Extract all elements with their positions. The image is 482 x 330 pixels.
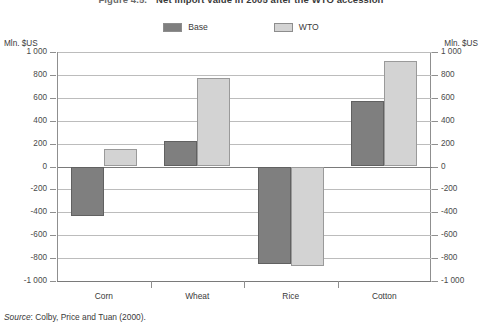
- legend-swatch-base: [163, 23, 182, 32]
- figure-title-text: Net import value in 2005 after the WTO a…: [156, 0, 383, 5]
- bar-corn-base[interactable]: [71, 167, 104, 216]
- x-axis-label-cotton: Cotton: [338, 291, 432, 301]
- source-text: : Colby, Price and Tuan (2000).: [31, 312, 146, 322]
- tick-mark-right: [432, 281, 438, 282]
- source-label: Source: [4, 312, 31, 322]
- tick-mark-left: [50, 189, 56, 190]
- category-separator: [338, 281, 339, 288]
- gridline: [58, 235, 432, 236]
- legend-label-base: Base: [188, 22, 208, 32]
- gridline: [58, 258, 432, 259]
- tick-mark-left: [50, 235, 56, 236]
- y-tick-label-right: -400: [441, 208, 457, 216]
- tick-mark-right: [432, 98, 438, 99]
- tick-mark-right: [432, 121, 438, 122]
- bar-wheat-wto[interactable]: [197, 78, 230, 166]
- gridline: [58, 98, 432, 99]
- y-tick-label-right: -600: [441, 231, 457, 239]
- y-tick-label-right: -800: [441, 254, 457, 262]
- tick-mark-right: [432, 75, 438, 76]
- y-tick-label-left: -200: [0, 185, 47, 193]
- y-tick-label-left: 600: [0, 94, 47, 102]
- bar-rice-wto[interactable]: [291, 167, 324, 267]
- y-tick-label-left: -1 000: [0, 277, 47, 285]
- tick-mark-left: [50, 258, 56, 259]
- tick-mark-right: [432, 258, 438, 259]
- y-tick-label-left: 400: [0, 117, 47, 125]
- y-tick-label-right: 600: [441, 94, 455, 102]
- gridline: [58, 189, 432, 190]
- x-axis-label-rice: Rice: [244, 291, 338, 301]
- tick-mark-left: [50, 75, 56, 76]
- tick-mark-right: [432, 189, 438, 190]
- bar-cotton-wto[interactable]: [384, 61, 417, 167]
- legend-swatch-wto: [274, 23, 293, 32]
- figure-number: Figure 4.5.: [98, 0, 147, 5]
- legend-item-base[interactable]: Base: [163, 22, 208, 32]
- tick-mark-right: [432, 167, 438, 168]
- y-tick-label-right: -1 000: [441, 277, 464, 285]
- y-tick-label-left: 800: [0, 71, 47, 79]
- chart-legend: Base WTO: [0, 20, 482, 34]
- gridline: [58, 75, 432, 76]
- y-tick-label-left: -400: [0, 208, 47, 216]
- y-tick-label-left: -600: [0, 231, 47, 239]
- y-tick-label-right: 800: [441, 71, 455, 79]
- bar-cotton-base[interactable]: [351, 101, 384, 167]
- y-tick-label-right: 0: [441, 163, 446, 171]
- y-tick-label-left: 200: [0, 140, 47, 148]
- legend-label-wto: WTO: [299, 22, 319, 32]
- y-tick-label-left: 0: [0, 163, 47, 171]
- bar-wheat-base[interactable]: [164, 141, 197, 167]
- y-tick-label-right: 400: [441, 117, 455, 125]
- tick-mark-left: [50, 281, 56, 282]
- tick-mark-left: [50, 52, 56, 53]
- bar-corn-wto[interactable]: [104, 149, 137, 167]
- tick-mark-left: [50, 98, 56, 99]
- tick-mark-right: [432, 144, 438, 145]
- page-title: Figure 4.5.Net import value in 2005 afte…: [0, 0, 482, 5]
- tick-mark-left: [50, 167, 56, 168]
- tick-mark-right: [432, 52, 438, 53]
- legend-item-wto[interactable]: WTO: [274, 22, 319, 32]
- tick-mark-left: [50, 144, 56, 145]
- category-separator: [244, 281, 245, 288]
- y-tick-label-right: 1 000: [441, 48, 462, 56]
- category-separator: [151, 281, 152, 288]
- x-axis-label-wheat: Wheat: [151, 291, 245, 301]
- chart-plot-area: [57, 52, 431, 281]
- tick-mark-left: [50, 212, 56, 213]
- bar-rice-base[interactable]: [258, 167, 291, 264]
- y-tick-label-left: -800: [0, 254, 47, 262]
- y-tick-label-left: 1 000: [0, 48, 47, 56]
- gridline: [58, 167, 432, 168]
- y-tick-label-right: 200: [441, 140, 455, 148]
- tick-mark-right: [432, 235, 438, 236]
- y-tick-label-right: -200: [441, 185, 457, 193]
- x-axis-label-corn: Corn: [57, 291, 151, 301]
- gridline: [58, 212, 432, 213]
- source-note: Source: Colby, Price and Tuan (2000).: [4, 312, 146, 322]
- tick-mark-right: [432, 212, 438, 213]
- gridline: [58, 52, 432, 53]
- tick-mark-left: [50, 121, 56, 122]
